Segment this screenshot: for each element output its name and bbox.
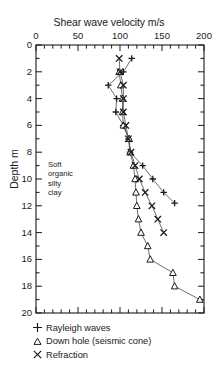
legend-item-refraction: Refraction (28, 348, 218, 362)
cross-marker-icon (28, 349, 46, 360)
y-tick-label: 4 (6, 93, 32, 104)
y-tick-label: 6 (6, 119, 32, 130)
plot-area (0, 0, 218, 365)
y-tick-label: 8 (6, 146, 32, 157)
series-cross (116, 55, 167, 236)
x-tick-label: 50 (58, 30, 98, 41)
legend-label: Down hole (seismic cone) (46, 336, 151, 346)
legend-label: Refraction (46, 350, 88, 360)
y-tick-label: 16 (6, 253, 32, 264)
x-tick-label: 150 (142, 30, 182, 41)
legend-item-rayleigh: Rayleigh waves (28, 321, 218, 335)
y-tick-label: 0 (6, 39, 32, 50)
x-tick-label: 100 (100, 30, 140, 41)
legend-item-downhole: Down hole (seismic cone) (28, 335, 218, 349)
y-tick-label: 20 (6, 307, 32, 318)
chart-legend: Rayleigh waves Down hole (seismic cone) … (28, 321, 218, 362)
y-tick-label: 10 (6, 173, 32, 184)
x-tick-label: 200 (184, 30, 218, 41)
plus-marker-icon (28, 322, 46, 333)
legend-label: Rayleigh waves (46, 323, 110, 333)
y-tick-label: 18 (6, 280, 32, 291)
y-tick-label: 2 (6, 66, 32, 77)
series-triangle (116, 68, 203, 302)
y-tick-label: 14 (6, 227, 32, 238)
shear-wave-velocity-chart: Shear wave velocity m/s Depth m Soft org… (0, 0, 218, 365)
triangle-marker-icon (28, 336, 46, 347)
y-tick-label: 12 (6, 200, 32, 211)
